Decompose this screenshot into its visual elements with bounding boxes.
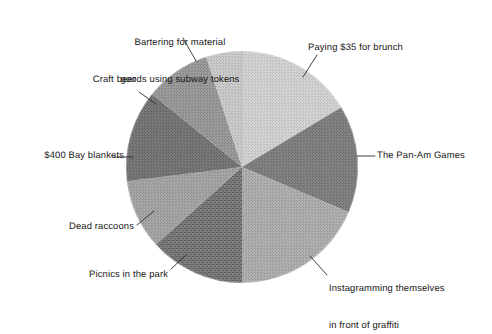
pie-label-dead-raccoons: Dead raccoons [24,220,134,232]
pie-label-paying-35-for-brunch: Paying $35 for brunch [308,41,458,53]
pie-label-instagram-line-1: Instagramming themselves [329,282,489,294]
pie-label-instagramming-themselves: Instagramming themselves in front of gra… [329,258,489,334]
pie-label-instagram-line-2: in front of graffiti [329,319,489,331]
pie-label-picnics-in-the-park: Picnics in the park [36,268,168,280]
leader-line-instagram [310,256,327,275]
pie-label-craft-beer: Craft beer [36,73,136,85]
pie-label-bartering-for-material-goods: Bartering for material goods using subwa… [108,12,252,110]
pie-label-400-bay-blankets: $400 Bay blankets [2,149,124,161]
pie-label-the-pan-am-games: The Pan-Am Games [377,149,489,161]
pie-label-bartering-line-1: Bartering for material [108,36,252,48]
